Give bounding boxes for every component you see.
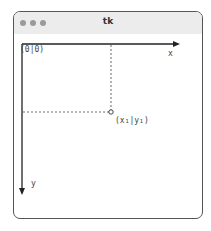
point-label: (x₁|y₁) xyxy=(115,116,149,125)
y-axis-arrow-icon xyxy=(19,188,25,195)
origin-label: (0|0) xyxy=(20,45,44,54)
x-axis-arrow-icon xyxy=(173,41,180,47)
point-marker xyxy=(109,110,113,114)
x-axis-label: x xyxy=(168,49,173,58)
coordinate-diagram xyxy=(0,0,211,231)
y-axis-label: y xyxy=(31,179,36,188)
